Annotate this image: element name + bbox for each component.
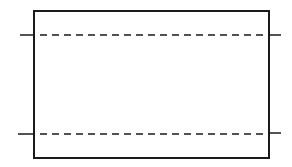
diagram-canvas <box>0 0 292 167</box>
rectangle-outline <box>34 11 269 158</box>
bottom-dashed-line <box>18 133 281 134</box>
